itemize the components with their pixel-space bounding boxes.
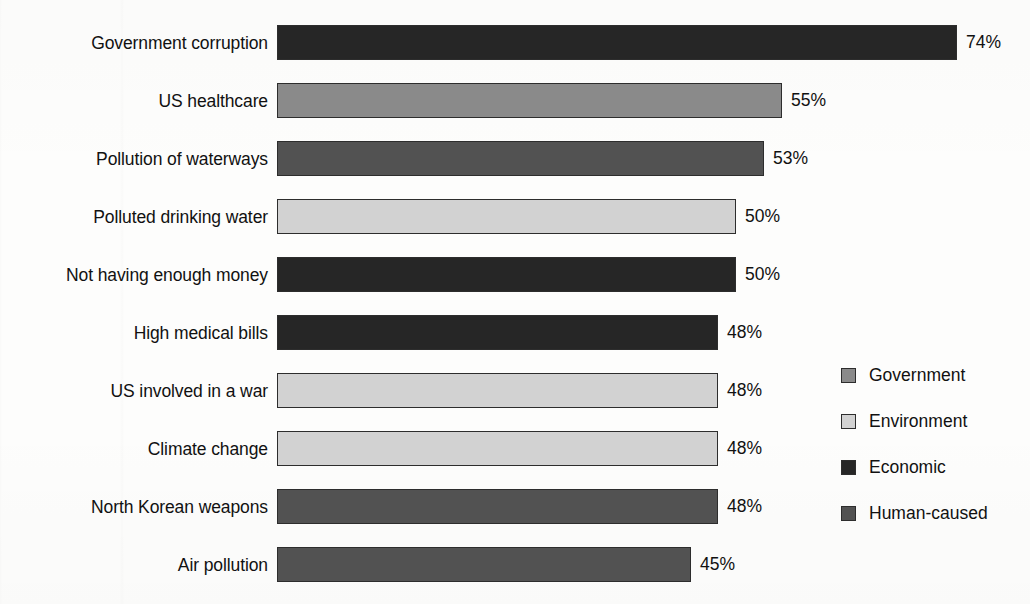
bar	[277, 257, 736, 292]
bar	[277, 431, 718, 466]
legend-item: Economic	[841, 444, 1030, 490]
bar-value-label: 50%	[745, 257, 780, 292]
bar-row: Air pollution45%	[0, 536, 1030, 594]
category-label: Polluted drinking water	[0, 188, 268, 246]
bar-row: Government corruption74%	[0, 14, 1030, 72]
legend-label: Human-caused	[869, 503, 988, 524]
bar-value-label: 48%	[727, 373, 762, 408]
legend-label: Economic	[869, 457, 946, 478]
bar	[277, 547, 691, 582]
legend-swatch-icon	[841, 414, 856, 429]
category-label: Air pollution	[0, 536, 268, 594]
legend-label: Government	[869, 365, 965, 386]
bar-value-label: 55%	[791, 83, 826, 118]
legend-item: Environment	[841, 398, 1030, 444]
legend-swatch-icon	[841, 368, 856, 383]
bar-value-label: 48%	[727, 315, 762, 350]
bar-value-label: 48%	[727, 431, 762, 466]
legend-swatch-icon	[841, 460, 856, 475]
bar	[277, 199, 736, 234]
bar	[277, 25, 957, 60]
bar-row: Polluted drinking water50%	[0, 188, 1030, 246]
legend-swatch-icon	[841, 506, 856, 521]
bar-value-label: 53%	[773, 141, 808, 176]
category-label: Government corruption	[0, 14, 268, 72]
bar-value-label: 74%	[966, 25, 1001, 60]
category-label: US healthcare	[0, 72, 268, 130]
bar	[277, 83, 782, 118]
category-label: Pollution of waterways	[0, 130, 268, 188]
bar-value-label: 45%	[700, 547, 735, 582]
legend-item: Government	[841, 352, 1030, 398]
bar-chart: Government corruption74%US healthcare55%…	[0, 0, 1030, 604]
bar-row: US healthcare55%	[0, 72, 1030, 130]
chart-legend: GovernmentEnvironmentEconomicHuman-cause…	[841, 352, 1030, 536]
bar-value-label: 50%	[745, 199, 780, 234]
bar-row: Pollution of waterways53%	[0, 130, 1030, 188]
bar	[277, 141, 764, 176]
category-label: Not having enough money	[0, 246, 268, 304]
bar-value-label: 48%	[727, 489, 762, 524]
legend-item: Human-caused	[841, 490, 1030, 536]
category-label: US involved in a war	[0, 362, 268, 420]
category-label: Climate change	[0, 420, 268, 478]
bar	[277, 489, 718, 524]
category-label: High medical bills	[0, 304, 268, 362]
category-label: North Korean weapons	[0, 478, 268, 536]
legend-label: Environment	[869, 411, 967, 432]
bar	[277, 315, 718, 350]
bar	[277, 373, 718, 408]
bar-row: Not having enough money50%	[0, 246, 1030, 304]
